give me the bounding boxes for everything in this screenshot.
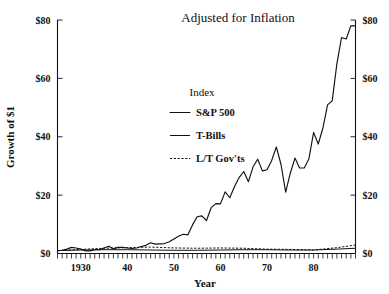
legend-label-0: S&P 500 [196, 107, 235, 118]
y-ticklabel-right: $60 [363, 73, 378, 84]
legend-title: Index [189, 86, 215, 98]
legend-label-1: T-Bills [196, 130, 225, 141]
x-ticklabel: 1930 [71, 262, 91, 273]
y-axis-label: Growth of $1 [4, 106, 16, 168]
chart-title: Adjusted for Inflation [181, 10, 295, 25]
x-ticklabel: 60 [215, 262, 225, 273]
y-ticklabel-left: $0 [41, 248, 51, 259]
y-ticklabel-left: $80 [36, 15, 51, 26]
x-ticklabel: 80 [309, 262, 319, 273]
y-ticklabel-right: $40 [363, 131, 378, 142]
y-ticklabel-left: $40 [36, 131, 51, 142]
legend-label-2: L/T Gov'ts [196, 153, 245, 164]
y-ticklabel-left: $60 [36, 73, 51, 84]
x-ticklabel: 40 [122, 262, 132, 273]
x-ticklabel: 50 [169, 262, 179, 273]
chart-screenshot: Adjusted for Inflation Growth of $1 Year… [0, 0, 389, 294]
y-ticklabel-right: $0 [363, 248, 373, 259]
x-ticklabel: 70 [262, 262, 272, 273]
x-axis-label: Year [194, 277, 216, 289]
y-ticklabel-left: $20 [36, 190, 51, 201]
y-ticklabel-right: $80 [363, 15, 378, 26]
y-ticklabel-right: $20 [363, 190, 378, 201]
line-chart: Adjusted for Inflation Growth of $1 Year… [0, 0, 389, 294]
